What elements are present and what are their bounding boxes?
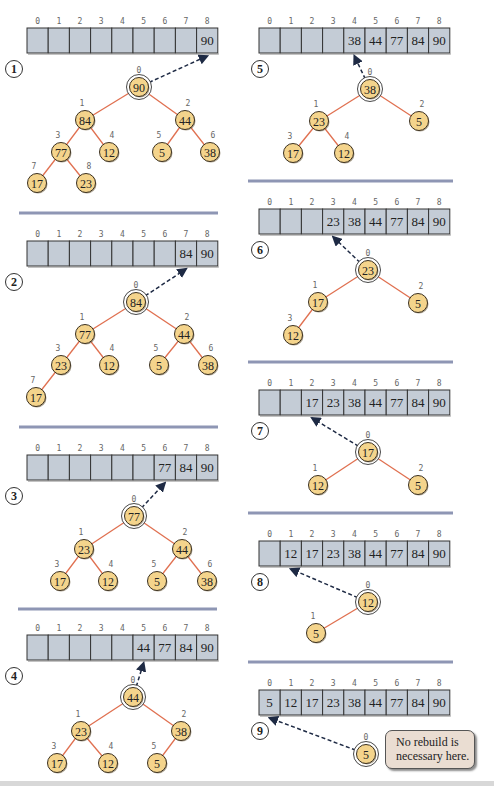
node-index-label: 0 (131, 676, 136, 685)
array-index-label: 7 (416, 198, 421, 207)
array-index-label: 1 (56, 444, 61, 453)
array-index-label: 4 (352, 198, 357, 207)
node-index-label: 2 (419, 464, 424, 473)
node-value: 44 (178, 328, 190, 342)
node-index-label: 1 (311, 612, 316, 621)
array-index-label: 4 (120, 624, 125, 633)
array-index-label: 5 (141, 230, 146, 239)
node-index-label: 0 (366, 431, 371, 440)
node-value: 38 (364, 83, 376, 97)
array-cell (91, 635, 112, 660)
array-index-label: 3 (99, 444, 104, 453)
array-index-label: 6 (394, 530, 399, 539)
array-cell (301, 209, 322, 234)
array: 17233844778490 (259, 390, 451, 416)
node-value: 12 (287, 329, 299, 343)
node-index-label: 3 (56, 131, 61, 140)
node-value: 23 (55, 359, 67, 373)
array-index-label: 3 (331, 679, 336, 688)
array-index-label: 4 (352, 17, 357, 26)
array-cell-value: 38 (348, 214, 361, 229)
node-index-label: 2 (185, 313, 190, 322)
array-cell-value: 84 (412, 546, 426, 561)
array-index-label: 8 (437, 198, 442, 207)
node-value: 44 (179, 114, 191, 128)
heap-node: 841 (76, 99, 96, 131)
array: 233844778490 (259, 209, 451, 235)
step-number: 1 (11, 62, 17, 76)
step-number: 3 (11, 489, 17, 503)
array-index-label: 3 (331, 379, 336, 388)
array-cell (133, 28, 154, 53)
array-index-label: 0 (35, 230, 40, 239)
step-panel-7: 01234567817233844778490717012152 (252, 379, 451, 496)
heap-node: 124 (100, 131, 120, 163)
node-index-label: 3 (56, 344, 61, 353)
node-value: 5 (159, 146, 165, 160)
array-index-label: 2 (78, 444, 83, 453)
array-index-label: 5 (373, 17, 378, 26)
array-cell-value: 90 (201, 33, 214, 48)
array-cell (280, 209, 301, 234)
heap-node: 773 (52, 131, 72, 163)
node-index-label: 5 (154, 344, 159, 353)
node-index-label: 1 (314, 100, 319, 109)
node-value: 84 (79, 114, 91, 128)
step-panel-3: 012345678778490377023144217312455386 (6, 444, 219, 592)
heap-node: 177 (28, 162, 48, 194)
node-index-label: 0 (368, 68, 373, 77)
array-cell (27, 241, 48, 266)
node-value: 5 (416, 115, 422, 129)
array-cell-value: 77 (390, 395, 404, 410)
array-cell-value: 90 (433, 695, 446, 710)
step-number: 7 (257, 424, 263, 438)
node-value: 38 (201, 575, 213, 589)
heap-node: 123 (284, 314, 304, 346)
array-cell (69, 28, 90, 53)
tree-edges (37, 87, 210, 183)
node-value: 5 (154, 575, 160, 589)
array-index-label: 3 (331, 17, 336, 26)
heap-node: 52 (410, 100, 430, 132)
array-index-label: 1 (288, 530, 293, 539)
array-cell-value: 23 (327, 214, 340, 229)
node-value: 5 (415, 479, 421, 493)
node-value: 12 (102, 575, 114, 589)
array-cell (259, 541, 280, 566)
array-index-label: 6 (394, 379, 399, 388)
heap-node: 170 (356, 431, 381, 465)
node-value: 23 (75, 725, 87, 739)
heap-node: 55 (153, 131, 173, 163)
step-panel-2: 0123456788490284077144223312455386177 (6, 230, 219, 408)
array-index-label: 8 (205, 624, 210, 633)
node-index-label: 4 (110, 131, 115, 140)
array-cell-value: 84 (180, 246, 194, 261)
step-panel-1: 01234567890190084144277312455386177238 (6, 17, 221, 194)
array-cell (69, 455, 90, 480)
callout-line-2: necessary here. (396, 749, 474, 763)
heap-node: 440 (121, 676, 146, 710)
array-index-label: 4 (352, 679, 357, 688)
node-index-label: 1 (313, 281, 318, 290)
node-value: 17 (54, 575, 66, 589)
node-index-label: 5 (152, 742, 157, 751)
node-value: 17 (287, 147, 299, 161)
array-cell (175, 28, 196, 53)
array-index-label: 4 (120, 230, 125, 239)
array: 778490 (27, 455, 219, 481)
node-index-label: 3 (52, 742, 57, 751)
heap-node: 386 (201, 131, 221, 163)
array-index-label: 7 (416, 379, 421, 388)
heap-node: 52 (409, 282, 429, 314)
node-index-label: 5 (152, 560, 157, 569)
move-arrow (136, 663, 143, 686)
array-cell (27, 635, 48, 660)
step-panels: 0123456789019008414427731245538617723801… (6, 17, 451, 774)
array-cell (280, 28, 301, 53)
step-number: 4 (11, 669, 17, 683)
heap-node: 386 (198, 560, 218, 592)
node-value: 23 (313, 115, 325, 129)
node-value: 12 (103, 359, 115, 373)
move-arrow (333, 237, 360, 262)
array-cell-value: 23 (327, 395, 340, 410)
